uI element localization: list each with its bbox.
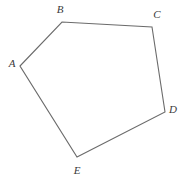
figure-background xyxy=(0,0,184,179)
pentagon-drawing-canvas xyxy=(0,0,184,179)
geometry-figure: A B C D E xyxy=(0,0,184,179)
vertex-label-d: D xyxy=(169,104,177,115)
vertex-label-b: B xyxy=(57,4,64,15)
vertex-label-a: A xyxy=(9,58,16,69)
vertex-label-c: C xyxy=(153,9,160,20)
vertex-label-e: E xyxy=(74,165,81,176)
